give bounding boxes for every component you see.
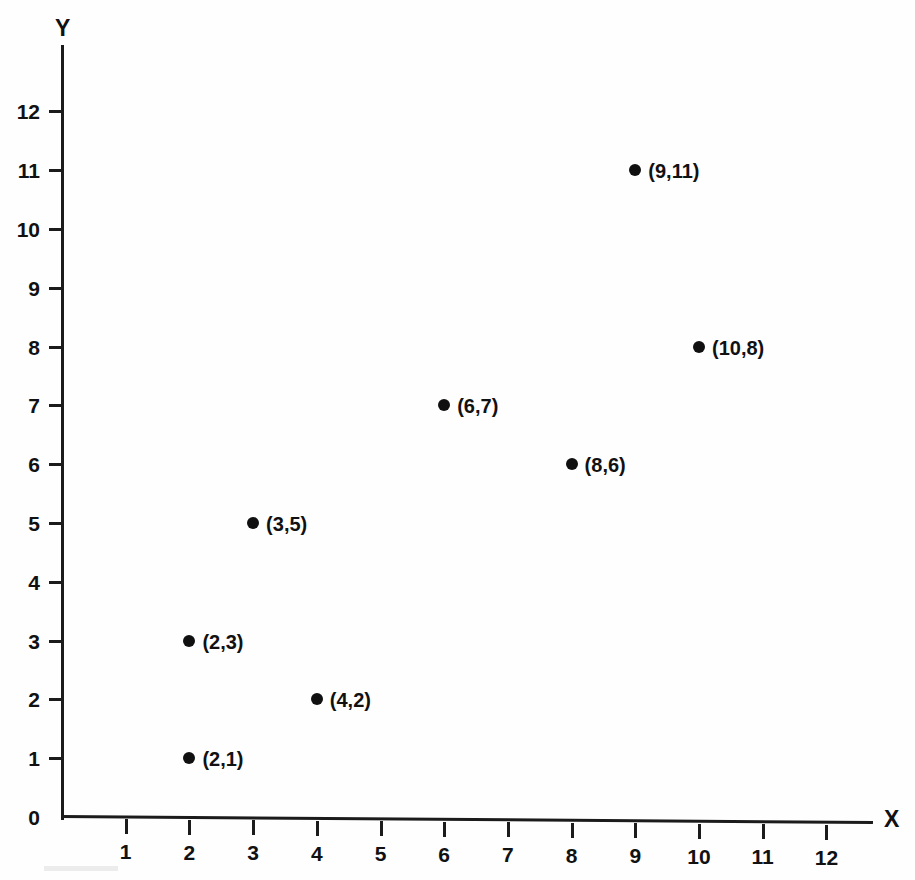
y-axis-tick [49,287,63,290]
data-point-label: (4,2) [330,690,371,710]
scatter-plot-figure: Y X 0123456789101112 123456789101112 (2,… [0,0,915,880]
y-axis-tick-label: 3 [0,631,40,652]
x-axis-title: X [884,808,899,831]
scan-artifact [44,866,118,871]
y-axis-tick [49,346,63,349]
y-axis-title: Y [55,17,70,40]
x-axis-line [61,815,873,824]
x-axis-tick [762,824,765,839]
x-axis-tick [507,822,510,837]
y-axis-tick-label: 10 [0,219,40,240]
y-axis-tick [49,463,63,466]
x-axis-tick [698,824,701,839]
y-axis-tick-label: 2 [0,689,40,710]
data-point[interactable] [629,164,641,176]
data-point-label: (2,3) [202,632,243,652]
data-point-label: (3,5) [266,514,307,534]
data-point-label: (8,6) [585,455,626,475]
x-axis-tick-label: 6 [424,844,464,865]
x-axis-tick [443,822,446,837]
x-axis-tick-label: 9 [615,845,655,866]
x-axis-tick-label: 11 [743,846,783,867]
data-point[interactable] [183,752,195,764]
y-axis-tick-label: 12 [0,101,40,122]
x-axis-tick-label: 7 [488,844,528,865]
y-axis-tick [49,640,63,643]
y-axis-tick [49,228,63,231]
x-axis-tick-label: 5 [361,843,401,864]
data-point[interactable] [566,458,578,470]
x-axis-tick-label: 1 [106,841,146,862]
y-axis-tick [49,522,63,525]
y-axis-tick-label: 6 [0,454,40,475]
x-axis-tick-label: 8 [552,845,592,866]
y-axis-line [61,45,64,820]
x-axis-tick [125,819,128,834]
data-point-label: (10,8) [712,338,764,358]
x-axis-tick-label: 3 [233,842,273,863]
y-axis-tick-label: 1 [0,748,40,769]
y-axis-tick [49,581,63,584]
y-axis-tick-label: 9 [0,278,40,299]
x-axis-tick [380,821,383,836]
data-point[interactable] [311,693,323,705]
data-point[interactable] [438,399,450,411]
y-axis-tick [49,404,63,407]
x-axis-tick-label: 2 [169,842,209,863]
data-point-label: (2,1) [202,749,243,769]
data-point-label: (6,7) [457,396,498,416]
y-axis-tick [49,110,63,113]
y-axis-tick-label: 7 [0,395,40,416]
data-point-label: (9,11) [648,161,699,181]
data-point[interactable] [247,517,259,529]
x-axis-tick [316,821,319,836]
x-axis-tick [252,820,255,835]
x-axis-tick [571,823,574,838]
y-axis-tick-label: 5 [0,513,40,534]
y-axis-tick [49,169,63,172]
x-axis-tick-label: 4 [297,843,337,864]
data-point[interactable] [693,341,705,353]
x-axis-tick [188,820,191,835]
y-axis-tick-label: 8 [0,337,40,358]
y-axis-tick [49,698,63,701]
x-axis-tick-label: 10 [679,846,719,867]
x-axis-tick-label: 12 [806,847,846,868]
y-axis-tick-label: 11 [0,160,40,181]
y-axis-tick-label: 4 [0,572,40,593]
data-point[interactable] [183,635,195,647]
x-axis-tick [825,825,828,840]
y-axis-tick [49,757,63,760]
y-axis-tick-label: 0 [0,807,40,828]
x-axis-tick [634,823,637,838]
